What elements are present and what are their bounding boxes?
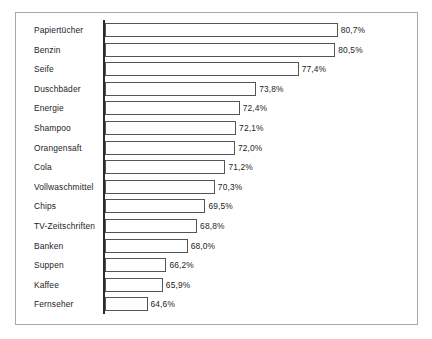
bar-track: 65,9% [105,278,353,292]
bar-chart-plot-area: Papiertücher80,7%Benzin80,5%Seife77,4%Du… [16,13,417,324]
bar [105,82,256,96]
bar-category-label: TV-Zeitschriften [34,216,100,236]
bar-value-label: 70,3% [218,180,243,194]
bar-track: 77,4% [105,62,353,76]
chart-frame: Papiertücher80,7%Benzin80,5%Seife77,4%Du… [15,12,418,325]
bar-track: 72,1% [105,121,353,135]
bar-row: Banken68,0% [16,236,417,256]
bar-category-label: Energie [34,98,100,118]
bar-category-label: Vollwaschmittel [34,177,100,197]
bar-value-label: 68,0% [191,239,216,253]
bar-track: 72,0% [105,141,353,155]
bar [105,121,236,135]
bar-track: 80,5% [105,43,353,57]
bar-row: Suppen66,2% [16,255,417,275]
bar-value-label: 66,2% [169,258,194,272]
bar-value-label: 72,4% [243,101,268,115]
bar-row: Cola71,2% [16,157,417,177]
bar-row: Vollwaschmittel70,3% [16,177,417,197]
bar-category-label: Seife [34,59,100,79]
bar [105,160,225,174]
bar-row: TV-Zeitschriften68,8% [16,216,417,236]
bar [105,278,163,292]
bar-row: Duschbäder73,8% [16,79,417,99]
bar-value-label: 71,2% [228,160,253,174]
bar [105,101,240,115]
bar-value-label: 77,4% [302,62,327,76]
bar-row: Fernseher64,6% [16,294,417,314]
bar-row: Energie72,4% [16,98,417,118]
bar-track: 66,2% [105,258,353,272]
bar-track: 80,7% [105,23,353,37]
bar-track: 68,0% [105,239,353,253]
bar [105,219,197,233]
bar-track: 70,3% [105,180,353,194]
bar-value-label: 80,5% [338,43,363,57]
bar [105,239,188,253]
bar-category-label: Cola [34,157,100,177]
bar-row: Papiertücher80,7% [16,20,417,40]
bar-track: 68,8% [105,219,353,233]
bar [105,180,215,194]
bar-value-label: 65,9% [166,278,191,292]
bar-category-label: Kaffee [34,275,100,295]
bar-category-label: Shampoo [34,118,100,138]
bar-row: Seife77,4% [16,59,417,79]
bar-category-label: Suppen [34,255,100,275]
bar-track: 64,6% [105,297,353,311]
bar-row: Orangensaft72,0% [16,138,417,158]
bar-track: 72,4% [105,101,353,115]
bar-value-label: 69,5% [208,199,233,213]
bar-category-label: Duschbäder [34,79,100,99]
bar-row: Chips69,5% [16,196,417,216]
bar-track: 71,2% [105,160,353,174]
bar-row: Benzin80,5% [16,40,417,60]
bar [105,141,235,155]
bar [105,43,335,57]
bar [105,297,148,311]
bar-value-label: 80,7% [341,23,366,37]
bar-value-label: 72,0% [238,141,263,155]
bar-value-label: 72,1% [239,121,264,135]
bar-row: Shampoo72,1% [16,118,417,138]
bar-category-label: Papiertücher [34,20,100,40]
bar [105,199,205,213]
bar-category-label: Fernseher [34,294,100,314]
bar-value-label: 64,6% [151,297,176,311]
bar [105,23,338,37]
bar-category-label: Benzin [34,40,100,60]
bar-track: 73,8% [105,82,353,96]
bar-row: Kaffee65,9% [16,275,417,295]
bar-track: 69,5% [105,199,353,213]
bar [105,62,299,76]
bar [105,258,166,272]
bar-value-label: 68,8% [200,219,225,233]
bar-value-label: 73,8% [259,82,284,96]
bar-category-label: Banken [34,236,100,256]
bar-category-label: Chips [34,196,100,216]
bar-category-label: Orangensaft [34,138,100,158]
